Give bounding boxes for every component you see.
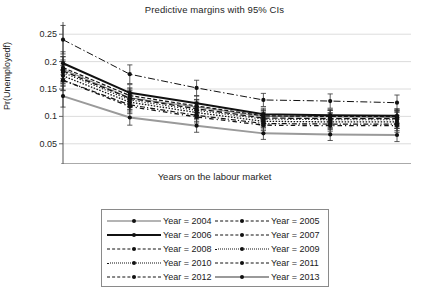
data-point bbox=[395, 101, 399, 105]
legend-label[interactable]: Year = 2010 bbox=[163, 256, 215, 270]
data-point bbox=[195, 86, 199, 90]
y-tick-label: 0.15 bbox=[39, 84, 57, 94]
legend-key[interactable] bbox=[215, 242, 271, 256]
y-tick-label: 0.2 bbox=[44, 57, 57, 67]
legend-key[interactable] bbox=[215, 214, 271, 228]
legend-row: Year = 2012Year = 2013 bbox=[107, 270, 323, 284]
data-point bbox=[261, 131, 265, 135]
legend-row: Year = 2006Year = 2007 bbox=[107, 228, 323, 242]
legend-label[interactable]: Year = 2005 bbox=[271, 214, 323, 228]
data-point bbox=[61, 78, 65, 82]
x-axis-label: Years on the labour market bbox=[0, 171, 429, 182]
legend-label[interactable]: Year = 2007 bbox=[271, 228, 323, 242]
legend-key[interactable] bbox=[107, 242, 163, 256]
legend-label[interactable]: Year = 2008 bbox=[163, 242, 215, 256]
legend-table: Year = 2004Year = 2005Year = 2006Year = … bbox=[107, 214, 323, 284]
legend-key[interactable] bbox=[107, 270, 163, 284]
legend-marker-icon bbox=[240, 275, 244, 279]
y-axis-label: Pr(Unemployedf) bbox=[2, 0, 12, 42]
legend-label[interactable]: Year = 2012 bbox=[163, 270, 215, 284]
data-point bbox=[395, 133, 399, 137]
plot-area: 0.050.10.150.20.25012345 bbox=[0, 14, 429, 164]
legend-label[interactable]: Year = 2006 bbox=[163, 228, 215, 242]
data-point bbox=[195, 115, 199, 119]
data-point bbox=[395, 124, 399, 128]
legend-label[interactable]: Year = 2004 bbox=[163, 214, 215, 228]
data-point bbox=[61, 74, 65, 78]
data-point bbox=[195, 124, 199, 128]
legend-marker-icon bbox=[132, 247, 136, 251]
legend-key[interactable] bbox=[215, 228, 271, 242]
legend-marker-icon bbox=[240, 261, 244, 265]
series-line bbox=[63, 63, 397, 116]
legend-marker-icon bbox=[240, 233, 244, 237]
legend-key[interactable] bbox=[215, 256, 271, 270]
legend-marker-icon bbox=[132, 275, 136, 279]
y-tick-label: 0.1 bbox=[44, 111, 57, 121]
chart-screenshot: Predictive margins with 95% CIs 0.050.10… bbox=[0, 0, 429, 298]
plot-svg: 0.050.10.150.20.25012345 bbox=[0, 14, 429, 164]
y-tick-label: 0.25 bbox=[39, 29, 57, 39]
legend-key[interactable] bbox=[107, 228, 163, 242]
legend-marker-icon bbox=[132, 261, 136, 265]
data-point bbox=[328, 99, 332, 103]
legend-label[interactable]: Year = 2009 bbox=[271, 242, 323, 256]
legend-key[interactable] bbox=[107, 214, 163, 228]
legend-row: Year = 2008Year = 2009 bbox=[107, 242, 323, 256]
data-point bbox=[128, 115, 132, 119]
data-point bbox=[61, 61, 65, 65]
legend-row: Year = 2010Year = 2011 bbox=[107, 256, 323, 270]
data-point bbox=[328, 124, 332, 128]
data-point bbox=[61, 94, 65, 98]
legend-marker-icon bbox=[240, 247, 244, 251]
y-axis-label-text: Pr(Unemployedf) bbox=[2, 42, 12, 110]
y-tick-label: 0.05 bbox=[39, 139, 57, 149]
data-point bbox=[61, 38, 65, 42]
legend-marker-icon bbox=[132, 219, 136, 223]
data-point bbox=[261, 123, 265, 127]
error-bars bbox=[60, 25, 399, 141]
legend-marker-icon bbox=[132, 233, 136, 237]
data-point bbox=[328, 132, 332, 136]
legend-label[interactable]: Year = 2011 bbox=[271, 256, 323, 270]
legend-label[interactable]: Year = 2013 bbox=[271, 270, 323, 284]
data-point bbox=[128, 72, 132, 76]
legend-marker-icon bbox=[240, 219, 244, 223]
legend: Year = 2004Year = 2005Year = 2006Year = … bbox=[101, 209, 329, 287]
legend-key[interactable] bbox=[215, 270, 271, 284]
legend-row: Year = 2004Year = 2005 bbox=[107, 214, 323, 228]
legend-key[interactable] bbox=[107, 256, 163, 270]
data-point bbox=[261, 98, 265, 102]
data-point bbox=[128, 104, 132, 108]
